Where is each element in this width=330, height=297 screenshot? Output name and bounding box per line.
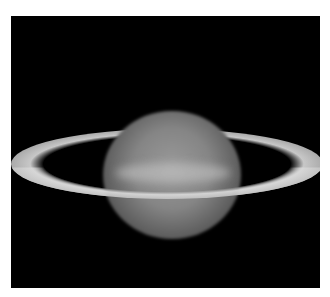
cutoff-caption-text	[0, 0, 330, 3]
saturn-photo	[11, 16, 320, 288]
